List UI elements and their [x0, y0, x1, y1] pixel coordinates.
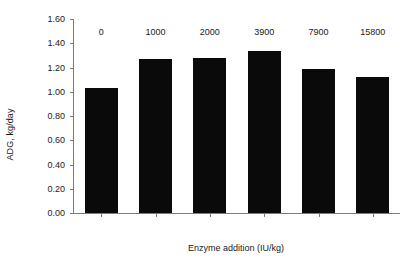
bar	[356, 77, 389, 213]
x-tick-mark	[319, 213, 320, 217]
y-tick-label: 0.20	[47, 184, 65, 195]
y-tick-mark: 0.20	[70, 189, 74, 190]
x-tick-label: 15800	[360, 27, 385, 38]
bar	[85, 88, 118, 213]
y-tick-label: 1.40	[47, 38, 65, 49]
y-tick-mark: 1.00	[70, 92, 74, 93]
bar-chart-figure: ADG, kg/day 0.000.200.400.600.801.001.20…	[0, 0, 419, 269]
bar	[139, 59, 172, 213]
x-tick-label: 1000	[145, 27, 165, 38]
x-tick-label: 7900	[308, 27, 328, 38]
y-axis-title: ADG, kg/day	[0, 0, 20, 269]
y-tick-label: 0.60	[47, 135, 65, 146]
y-tick-mark: 0.40	[70, 165, 74, 166]
x-tick-mark	[264, 213, 265, 217]
bar	[248, 51, 281, 213]
bar	[302, 69, 335, 213]
bar	[193, 58, 226, 213]
x-tick-mark	[210, 213, 211, 217]
y-tick-mark: 1.20	[70, 68, 74, 69]
plot-area: 0.000.200.400.600.801.001.201.401.60 010…	[73, 19, 400, 214]
x-tick-label: 3900	[254, 27, 274, 38]
y-tick-mark: 0.00	[70, 213, 74, 214]
x-tick-mark	[373, 213, 374, 217]
y-tick-mark: 0.60	[70, 140, 74, 141]
y-tick-mark: 1.40	[70, 43, 74, 44]
y-tick-label: 0.80	[47, 111, 65, 122]
y-tick-label: 1.00	[47, 87, 65, 98]
x-tick-mark	[101, 213, 102, 217]
x-tick-label: 2000	[200, 27, 220, 38]
x-axis-title: Enzyme addition (IU/kg)	[73, 243, 399, 253]
y-tick-label: 0.40	[47, 160, 65, 171]
y-tick-label: 0.00	[47, 208, 65, 219]
y-tick-mark: 1.60	[70, 19, 74, 20]
y-tick-mark: 0.80	[70, 116, 74, 117]
y-tick-label: 1.60	[47, 14, 65, 25]
x-tick-label: 0	[99, 27, 104, 38]
y-tick-label: 1.20	[47, 63, 65, 74]
x-tick-mark	[156, 213, 157, 217]
